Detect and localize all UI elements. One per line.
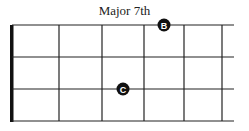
nut (10, 25, 14, 122)
note-label: B (161, 21, 168, 31)
fretboard-diagram: B C (0, 0, 249, 131)
note-label: C (120, 85, 127, 95)
note-dot-c: C (117, 83, 130, 96)
note-dot-b: B (158, 19, 171, 32)
